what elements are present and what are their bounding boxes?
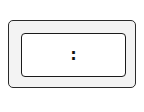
clock-display-screen: : xyxy=(21,33,126,77)
time-separator: : xyxy=(71,48,77,63)
clock-display-frame: : xyxy=(8,20,136,88)
